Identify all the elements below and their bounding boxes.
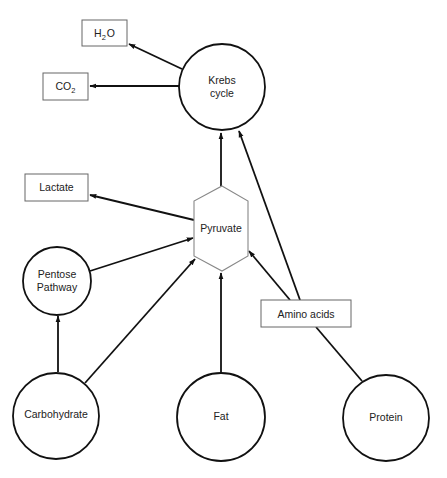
node-pentose-pathway: Pentose Pathway — [23, 247, 91, 315]
pyruvate-label: Pyruvate — [200, 222, 242, 234]
node-amino-acids: Amino acids — [261, 300, 351, 327]
node-carbohydrate: Carbohydrate — [13, 373, 99, 459]
edge-amino-acids-to-pyruvate — [249, 251, 290, 300]
amino-acids-label: Amino acids — [277, 308, 334, 320]
edge-protein-to-amino-acids — [316, 327, 362, 381]
krebs-label-line2: cycle — [210, 87, 234, 99]
node-fat: Fat — [177, 373, 265, 461]
lactate-label: Lactate — [39, 181, 74, 193]
fat-label: Fat — [213, 410, 228, 422]
node-krebs-cycle: Krebs cycle — [179, 44, 265, 130]
protein-label: Protein — [369, 411, 402, 423]
edge-pyruvate-to-lactate — [90, 195, 194, 220]
edge-krebs-to-h2o — [129, 44, 182, 69]
node-lactate: Lactate — [25, 174, 88, 201]
metabolism-diagram: Krebs cycle H2O CO2 Lactate Pyruvate Pen… — [0, 0, 447, 478]
krebs-label-line1: Krebs — [208, 74, 235, 86]
node-co2: CO2 — [43, 73, 88, 100]
node-pyruvate: Pyruvate — [194, 186, 248, 271]
edge-carbohydrate-to-pyruvate — [85, 259, 195, 383]
node-h2o: H2O — [82, 20, 127, 46]
pentose-label-line2: Pathway — [37, 281, 78, 293]
node-protein: Protein — [343, 375, 429, 461]
edge-pentose-to-pyruvate — [90, 238, 193, 271]
carbohydrate-label: Carbohydrate — [24, 408, 88, 420]
pentose-label-line1: Pentose — [38, 268, 77, 280]
